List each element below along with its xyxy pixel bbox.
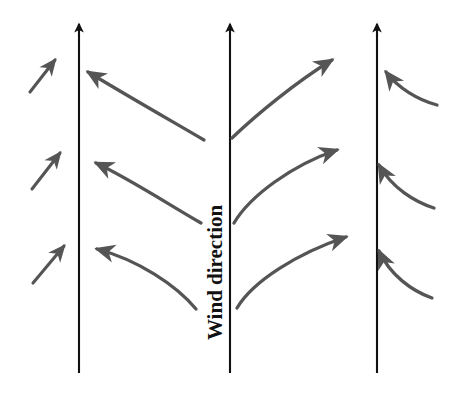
wind-direction-diagram: Wind direction — [0, 0, 461, 402]
wind-direction-label-group: Wind direction — [203, 205, 227, 340]
wind-direction-figure: Wind direction — [0, 0, 461, 402]
wind-direction-label: Wind direction — [203, 205, 227, 340]
